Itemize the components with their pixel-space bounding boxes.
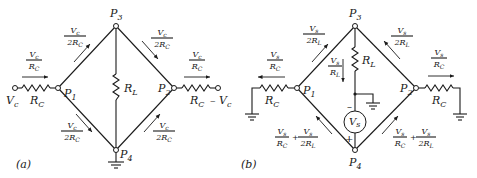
- node-p1-a: [56, 86, 61, 91]
- current-label-p4-p1-b: Vs RC + Vs 2RL: [275, 127, 318, 149]
- node-p4-a: [114, 148, 119, 153]
- rc-label-left-a: RC: [29, 94, 44, 109]
- source-plus: +: [345, 133, 353, 144]
- svg-text:RC: RC: [394, 139, 406, 149]
- current-label-p3-p2-a: Vc 2RC: [151, 28, 173, 50]
- wire-p1-p3: [58, 26, 116, 88]
- rc-label-left-b: RC: [264, 94, 279, 109]
- rc-label-right-a: RC: [189, 94, 204, 109]
- rl-label-a: RL: [123, 82, 138, 97]
- circuit-figure: RL Vc RC RC – Vc P1 P: [0, 0, 477, 178]
- node-p1-b: [295, 86, 300, 91]
- svg-text:Vs: Vs: [310, 24, 319, 34]
- svg-text:2RL: 2RL: [393, 38, 409, 48]
- svg-text:RC: RC: [28, 62, 40, 72]
- p2-label-b: P2: [399, 82, 413, 97]
- current-label-p1-p4-a: Vc 2RC: [61, 121, 83, 143]
- svg-text:Vc: Vc: [192, 50, 202, 60]
- svg-text:Vc: Vc: [67, 121, 77, 131]
- node-p4-b: [353, 148, 358, 153]
- svg-text:+: +: [292, 133, 299, 142]
- current-arrow-p1-p3-b: [312, 44, 328, 62]
- current-label-p4-p2-a: Vc 2RC: [153, 121, 175, 143]
- current-label-load-b: Vs RL: [328, 56, 342, 78]
- panel-b: RL – Vs + RC: [241, 7, 467, 171]
- load-resistor-a: [113, 26, 119, 150]
- svg-text:Vs: Vs: [435, 48, 444, 58]
- node-p2-a: [172, 86, 177, 91]
- svg-text:Vc: Vc: [157, 28, 167, 38]
- svg-text:2RC: 2RC: [66, 38, 83, 48]
- current-label-p1-p3-b: Vs 2RL: [303, 24, 325, 46]
- current-label-left-in-a: Vc RC: [26, 50, 42, 72]
- svg-text:Vc: Vc: [70, 26, 80, 36]
- rl-label-b: RL: [361, 54, 376, 69]
- svg-text:Vs: Vs: [398, 26, 407, 36]
- load-resistor-b: [352, 26, 358, 111]
- rc-label-right-b: RC: [431, 94, 446, 109]
- terminal-right-a: [216, 86, 221, 91]
- left-resistor-a: [17, 85, 55, 91]
- svg-text:RC: RC: [191, 62, 203, 72]
- right-resistor-a: [177, 85, 216, 91]
- svg-text:RC: RC: [269, 62, 281, 72]
- p4-label-b: P4: [348, 156, 362, 171]
- p1-label-a: P1: [63, 87, 77, 102]
- vc-label-left: Vc: [6, 94, 19, 109]
- terminal-left-a: [13, 86, 18, 91]
- svg-text:2RC: 2RC: [155, 133, 172, 143]
- vc-label-right: – Vc: [210, 94, 232, 109]
- panel-label-b: (b): [241, 158, 257, 171]
- current-arrow-p4-p1-b: [316, 116, 332, 134]
- p3-label-b: P3: [348, 7, 362, 22]
- current-label-right-out-a: Vc RC: [189, 50, 205, 72]
- panel-a: RL Vc RC RC – Vc P1 P: [6, 7, 232, 171]
- svg-text:Vs: Vs: [422, 127, 431, 137]
- source-minus: –: [347, 101, 352, 112]
- svg-text:Vc: Vc: [159, 121, 169, 131]
- svg-text:RC: RC: [433, 60, 445, 70]
- ground-icon: [453, 114, 467, 120]
- node-p3-b: [353, 24, 358, 29]
- svg-text:RC: RC: [276, 139, 288, 149]
- svg-text:Vs: Vs: [331, 56, 340, 66]
- p3-label-a: P3: [109, 7, 123, 22]
- svg-text:2RC: 2RC: [153, 40, 170, 50]
- svg-text:2RL: 2RL: [305, 36, 321, 46]
- current-arrow-p1-p4: [76, 114, 92, 132]
- ground-icon: [245, 114, 259, 120]
- ground-icon: [355, 94, 380, 109]
- node-p2-b: [414, 86, 419, 91]
- node-p3-a: [114, 24, 119, 29]
- p4-label-a: P4: [119, 148, 133, 163]
- svg-text:2RL: 2RL: [417, 139, 433, 149]
- svg-text:+: +: [410, 133, 417, 142]
- current-label-right-out-b: Vs RC: [431, 48, 447, 70]
- p1-label-b: P1: [302, 84, 316, 99]
- svg-text:Vc: Vc: [29, 50, 39, 60]
- current-label-p2-p3-b: Vs 2RL: [391, 26, 413, 48]
- panel-label-a: (a): [16, 158, 31, 171]
- svg-text:2RL: 2RL: [299, 139, 315, 149]
- current-label-left-out-b: Vs RC: [267, 50, 283, 72]
- current-label-p4-p2-b: Vs RC + Vs 2RL: [393, 127, 436, 149]
- svg-text:2RC: 2RC: [63, 133, 80, 143]
- svg-text:Vs: Vs: [271, 50, 280, 60]
- current-label-p1-p3-a: Vc 2RC: [64, 26, 86, 48]
- svg-text:RL: RL: [329, 68, 340, 78]
- p2-label-a: P2: [157, 82, 171, 97]
- svg-text:Vs: Vs: [278, 127, 287, 137]
- svg-text:Vs: Vs: [396, 127, 405, 137]
- svg-text:Vs: Vs: [304, 127, 313, 137]
